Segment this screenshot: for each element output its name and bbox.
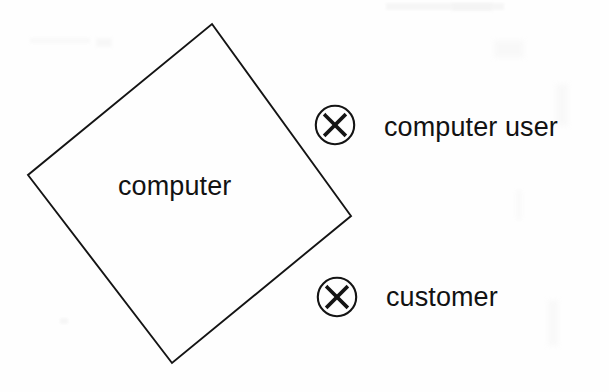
x-in-circle-icon[interactable]	[314, 104, 356, 146]
diagram-shapes	[0, 0, 609, 392]
actor-label-customer: customer	[386, 282, 498, 312]
actor-label-computer-user: computer user	[384, 112, 558, 142]
computer-node-label: computer	[118, 171, 231, 201]
diagram-canvas: computer computer user customer	[0, 0, 609, 392]
x-in-circle-icon[interactable]	[316, 276, 358, 318]
